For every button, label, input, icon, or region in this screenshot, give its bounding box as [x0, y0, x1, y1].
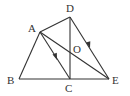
geometry-diagram: A B C D E O — [0, 0, 130, 96]
segment-ae — [40, 32, 109, 79]
label-b: B — [7, 74, 14, 86]
segment-ab — [19, 32, 40, 79]
arrow-ac-icon — [53, 53, 58, 60]
label-a: A — [28, 22, 36, 34]
label-o: O — [73, 43, 81, 55]
segment-ad — [40, 17, 70, 32]
label-e: E — [112, 74, 119, 86]
label-d: D — [66, 2, 74, 14]
arrow-de-icon — [86, 41, 90, 48]
label-c: C — [65, 82, 72, 94]
